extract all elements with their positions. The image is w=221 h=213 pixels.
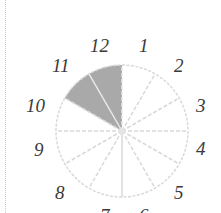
- clock-center: [119, 128, 125, 134]
- hour-label-5: 5: [174, 182, 184, 203]
- hour-label-2: 2: [174, 55, 184, 76]
- hour-label-1: 1: [139, 35, 149, 56]
- hour-label-8: 8: [55, 182, 65, 203]
- hour-label-9: 9: [34, 139, 44, 160]
- hour-label-6: 6: [139, 205, 149, 213]
- hour-label-10: 10: [26, 95, 46, 116]
- hour-label-7: 7: [100, 205, 111, 213]
- hour-label-12: 12: [90, 35, 110, 56]
- hour-label-3: 3: [195, 95, 206, 116]
- clock-diagram: 12 1 2 3 4 5 6 7 8 9 10 11: [0, 0, 221, 213]
- hour-label-11: 11: [52, 55, 70, 76]
- hour-label-4: 4: [196, 138, 206, 159]
